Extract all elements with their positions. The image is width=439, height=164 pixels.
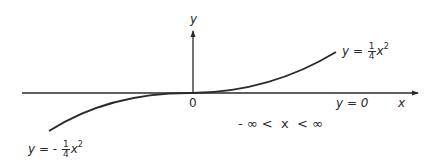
equation-upper-var: x: [377, 44, 384, 58]
equation-upper-exp: 2: [384, 42, 389, 51]
origin-label: 0: [189, 97, 197, 109]
equation-lower-sign: -: [53, 142, 57, 156]
x-axis-label: x: [398, 97, 405, 109]
equation-lower-var: x: [71, 142, 78, 156]
curve-lower: [49, 93, 193, 131]
fraction-one-quarter: 14: [62, 140, 70, 159]
y-axis-label: y: [190, 13, 197, 25]
asymptote-label: y = 0: [336, 97, 368, 109]
equation-upper-lhs: y =: [342, 44, 363, 58]
fraction-one-quarter: 14: [368, 42, 376, 61]
equation-lower-lhs: y =: [28, 142, 49, 156]
domain-label: - ∞ < x < ∞: [238, 117, 323, 130]
equation-lower-exp: 2: [78, 140, 83, 149]
curve-upper: [193, 52, 336, 93]
equation-upper: y = 14x2: [342, 42, 389, 61]
equation-lower: y = - 14x2: [28, 140, 83, 159]
